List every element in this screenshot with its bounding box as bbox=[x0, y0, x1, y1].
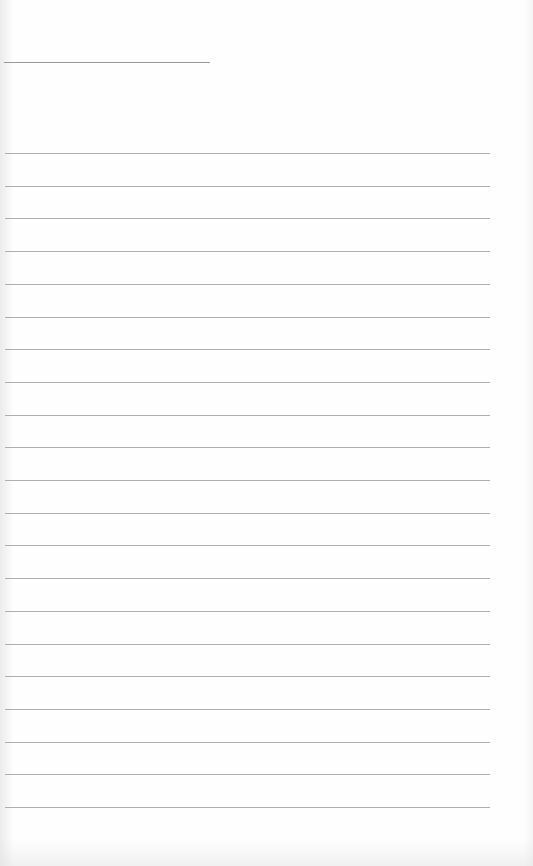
ruled-line bbox=[5, 709, 490, 710]
ruled-line bbox=[5, 807, 490, 808]
ruled-line bbox=[5, 317, 490, 318]
ruled-line bbox=[5, 349, 490, 350]
ruled-line bbox=[5, 415, 490, 416]
ruled-line bbox=[5, 611, 490, 612]
ruled-line bbox=[5, 578, 490, 579]
ruled-line bbox=[5, 513, 490, 514]
ruled-line bbox=[5, 382, 490, 383]
ruled-paper-page bbox=[0, 0, 533, 866]
ruled-line bbox=[5, 186, 490, 187]
ruled-line bbox=[5, 644, 490, 645]
ruled-line bbox=[5, 284, 490, 285]
header-line bbox=[4, 62, 210, 63]
ruled-line bbox=[5, 742, 490, 743]
ruled-line bbox=[5, 153, 490, 154]
ruled-line bbox=[5, 447, 490, 448]
ruled-line bbox=[5, 545, 490, 546]
ruled-line bbox=[5, 480, 490, 481]
ruled-line bbox=[5, 774, 490, 775]
page-edge-shadow-bottom bbox=[0, 840, 533, 866]
ruled-line bbox=[5, 676, 490, 677]
page-edge-shadow-left bbox=[0, 0, 14, 866]
ruled-line bbox=[5, 218, 490, 219]
page-edge-shadow-right bbox=[523, 0, 533, 866]
ruled-line bbox=[5, 251, 490, 252]
